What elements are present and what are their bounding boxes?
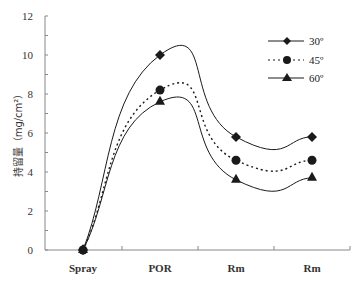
y-tick-label: 2 [28,205,34,217]
legend-item-30: 30º [268,35,324,47]
y-axis-label: 持留量（mg/cm²） [12,89,24,178]
series-group [78,45,317,255]
y-tick-label: 4 [28,166,34,178]
x-tick-label: Rm [303,262,320,274]
circle-marker-icon [308,156,317,165]
diamond-marker-icon [307,132,317,142]
diamond-marker-icon [155,50,165,60]
legend-item-45: 45º [268,54,324,66]
series-30 [78,45,317,255]
x-tick-label: POR [148,262,172,274]
y-tick-label: 0 [28,244,34,256]
y-tick-label: 10 [22,49,34,61]
diamond-marker-icon [231,132,241,142]
diamond-marker-icon [283,37,291,45]
legend: 30º 45º 60º [268,35,324,84]
series-60 [78,96,317,253]
y-tick-label: 12 [22,10,33,22]
y-tick-label: 8 [28,88,34,100]
legend-label: 45º [309,54,324,66]
circle-marker-icon [156,86,165,95]
circle-marker-icon [232,156,241,165]
legend-label: 30º [309,35,324,47]
x-axis: SprayPORRmRm [45,246,350,274]
line-chart: 024681012 SprayPORRmRm 持留量（mg/cm²） 30º 4… [0,0,359,287]
legend-label: 60º [309,72,324,84]
y-tick-label: 6 [28,127,34,139]
y-axis: 024681012 [22,10,48,256]
circle-marker-icon [283,56,291,64]
triangle-marker-icon [307,172,317,181]
x-tick-label: Spray [69,262,98,274]
legend-item-60: 60º [268,72,324,84]
x-tick-label: Rm [227,262,244,274]
series-45 [79,83,317,255]
triangle-marker-icon [282,73,292,81]
